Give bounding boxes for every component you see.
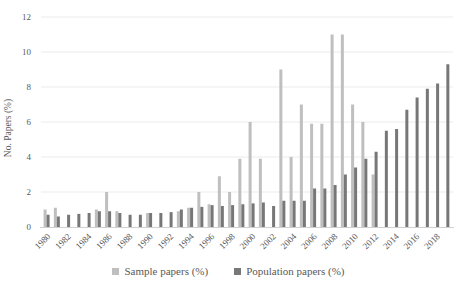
bar-sample-1994 — [187, 208, 190, 227]
bar-sample-1990 — [146, 213, 149, 227]
population-swatch-icon — [234, 268, 241, 275]
bar-population-2016 — [416, 98, 419, 228]
bar-population-2001 — [262, 203, 265, 228]
legend: Sample papers (%) Population papers (%) — [0, 265, 457, 277]
bar-population-1997 — [221, 206, 224, 227]
sample-swatch-icon — [112, 268, 119, 275]
x-tick-label-1982: 1982 — [53, 231, 73, 251]
bar-population-1995 — [200, 207, 203, 227]
bar-population-1984 — [88, 213, 91, 227]
bar-population-2003 — [282, 201, 285, 227]
x-tick-label-1986: 1986 — [94, 231, 114, 251]
bar-sample-2010 — [351, 105, 354, 228]
bar-chart: 0246810121980198219841986198819901992199… — [0, 0, 457, 296]
x-tick-label-1984: 1984 — [74, 231, 94, 251]
x-tick-label-2006: 2006 — [299, 231, 319, 251]
bar-population-1989 — [139, 215, 142, 227]
bar-sample-1996 — [208, 204, 211, 227]
bar-sample-2009 — [341, 35, 344, 228]
bar-population-1998 — [231, 205, 234, 227]
bar-population-1986 — [108, 211, 111, 227]
x-tick-label-2000: 2000 — [238, 231, 258, 251]
legend-sample-label: Sample papers (%) — [124, 265, 208, 277]
y-tick-label-6: 6 — [27, 117, 32, 127]
bar-sample-2011 — [361, 122, 364, 227]
x-tick-label-2012: 2012 — [361, 231, 381, 251]
bar-sample-2001 — [259, 159, 262, 227]
bar-population-2010 — [354, 168, 357, 228]
bar-sample-1999 — [238, 159, 241, 227]
bar-population-2013 — [385, 131, 388, 227]
bar-population-1992 — [170, 212, 173, 227]
bar-sample-2003 — [279, 70, 282, 228]
y-axis-title: No. Papers (%) — [3, 99, 14, 157]
bar-population-1988 — [129, 215, 132, 227]
x-tick-label-2016: 2016 — [402, 231, 422, 251]
bar-population-2015 — [405, 110, 408, 227]
x-tick-label-2004: 2004 — [279, 231, 299, 251]
bar-population-1982 — [67, 215, 70, 227]
bar-population-2000 — [252, 203, 255, 227]
bar-sample-1980 — [44, 210, 47, 228]
bar-population-1999 — [241, 204, 244, 227]
bar-population-2012 — [375, 152, 378, 227]
bar-population-1990 — [149, 213, 152, 227]
x-tick-label-2018: 2018 — [422, 231, 442, 251]
bar-population-2017 — [426, 89, 429, 227]
bar-population-1996 — [211, 205, 214, 227]
bar-population-2019 — [446, 64, 449, 227]
bar-population-2011 — [364, 159, 367, 227]
bar-population-1994 — [190, 208, 193, 227]
bar-sample-1986 — [105, 192, 108, 227]
y-tick-label-10: 10 — [22, 47, 32, 57]
y-tick-label-2: 2 — [27, 187, 32, 197]
bar-sample-1981 — [54, 208, 57, 227]
x-tick-label-2010: 2010 — [340, 231, 360, 251]
bar-sample-1993 — [177, 211, 180, 227]
y-tick-label-0: 0 — [27, 222, 32, 232]
bar-sample-1998 — [228, 192, 231, 227]
bar-sample-2006 — [310, 124, 313, 227]
bar-sample-1995 — [197, 192, 200, 227]
bar-sample-2012 — [372, 175, 375, 228]
chart-page: 0246810121980198219841986198819901992199… — [0, 0, 457, 296]
bar-sample-2000 — [249, 122, 252, 227]
bar-population-1981 — [57, 217, 60, 228]
bar-sample-2005 — [300, 105, 303, 228]
bar-sample-1997 — [218, 176, 221, 227]
bar-population-2018 — [436, 84, 439, 228]
bar-population-2002 — [272, 206, 275, 227]
bar-sample-1987 — [115, 211, 118, 227]
bar-population-2006 — [313, 189, 316, 228]
y-tick-label-4: 4 — [27, 152, 32, 162]
bar-population-1991 — [159, 213, 162, 227]
x-tick-label-1996: 1996 — [197, 231, 217, 251]
bar-population-2005 — [303, 201, 306, 227]
x-tick-label-1988: 1988 — [115, 231, 135, 251]
x-tick-label-2008: 2008 — [320, 231, 340, 251]
x-tick-label-2002: 2002 — [258, 231, 278, 251]
x-tick-label-1994: 1994 — [176, 231, 196, 251]
legend-item-sample: Sample papers (%) — [112, 265, 208, 277]
bar-sample-2008 — [331, 35, 334, 228]
x-tick-label-1992: 1992 — [156, 231, 176, 251]
bar-population-1987 — [118, 213, 121, 227]
x-tick-label-1980: 1980 — [33, 231, 53, 251]
bar-sample-2007 — [320, 124, 323, 227]
bar-sample-2004 — [290, 157, 293, 227]
x-tick-label-1990: 1990 — [135, 231, 155, 251]
y-tick-label-12: 12 — [22, 12, 31, 22]
x-tick-label-1998: 1998 — [217, 231, 237, 251]
bar-sample-1985 — [95, 210, 98, 228]
y-tick-label-8: 8 — [27, 82, 32, 92]
bar-population-1983 — [77, 214, 80, 227]
bar-population-2007 — [323, 189, 326, 228]
bar-population-2009 — [344, 175, 347, 228]
x-tick-label-2014: 2014 — [381, 231, 401, 251]
bar-population-2014 — [395, 129, 398, 227]
bar-population-1985 — [98, 211, 101, 227]
bar-population-1980 — [47, 215, 50, 227]
bar-population-2008 — [334, 185, 337, 227]
bar-population-1993 — [180, 210, 183, 228]
bar-population-2004 — [293, 201, 296, 227]
